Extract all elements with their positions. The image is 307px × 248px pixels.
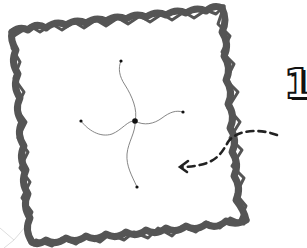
tendril-right — [135, 111, 183, 124]
scribbled-square-frame — [12, 6, 247, 246]
dashed-curved-arrow — [180, 131, 277, 172]
pinwheel-nodes — [79, 59, 184, 188]
endpoint-left — [79, 119, 82, 122]
diagram-canvas — [0, 0, 307, 248]
faint-background-lines — [0, 226, 26, 248]
tendril-left — [81, 121, 135, 135]
endpoint-right — [181, 110, 184, 113]
center-node — [132, 118, 138, 124]
tendril-top — [119, 61, 135, 121]
pinwheel-tendrils — [81, 61, 183, 187]
endpoint-bottom — [135, 185, 138, 188]
endpoint-top — [119, 59, 122, 62]
step-number-label: 1 — [284, 64, 307, 104]
tendril-bottom — [127, 121, 137, 187]
